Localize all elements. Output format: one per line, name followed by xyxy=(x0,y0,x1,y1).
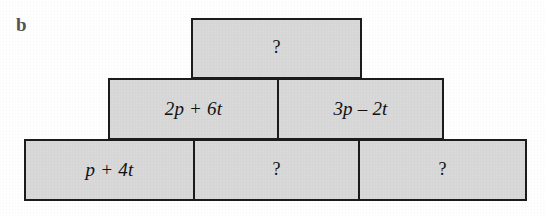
pyramid-cell-bottom-2[interactable]: ? xyxy=(193,141,358,199)
pyramid-cell-top-1-text: ? xyxy=(272,37,280,58)
pyramid-cell-bottom-3[interactable]: ? xyxy=(358,141,525,199)
pyramid-cell-middle-1-text: 2p + 6t xyxy=(165,98,223,120)
algebra-pyramid-figure: b ? 2p + 6t 3p – 2t p + 4t ? ? xyxy=(0,0,546,216)
pyramid-cell-middle-2-text: 3p – 2t xyxy=(333,98,387,120)
pyramid-row-top: ? xyxy=(191,18,362,79)
pyramid-cell-bottom-2-text: ? xyxy=(272,159,280,180)
pyramid-cell-bottom-3-text: ? xyxy=(438,159,446,180)
pyramid-cell-middle-2[interactable]: 3p – 2t xyxy=(277,80,442,138)
pyramid-cell-bottom-1[interactable]: p + 4t xyxy=(26,141,193,199)
pyramid-cell-middle-1[interactable]: 2p + 6t xyxy=(110,80,277,138)
part-label-b: b xyxy=(16,12,42,38)
pyramid-cell-bottom-1-text: p + 4t xyxy=(86,159,134,181)
pyramid-row-middle: 2p + 6t 3p – 2t xyxy=(108,78,444,140)
pyramid-cell-top-1[interactable]: ? xyxy=(193,20,360,77)
pyramid-row-bottom: p + 4t ? ? xyxy=(24,139,527,201)
